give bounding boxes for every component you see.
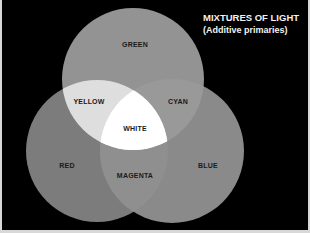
diagram-frame: GREEN YELLOW CYAN WHITE RED MAGENTA BLUE…: [0, 0, 310, 233]
label-yellow: YELLOW: [73, 98, 104, 105]
label-white: WHITE: [123, 125, 147, 132]
label-blue: BLUE: [198, 162, 218, 169]
label-red: RED: [59, 162, 74, 169]
label-green: GREEN: [122, 41, 148, 48]
title-line-2: (Additive primaries): [203, 25, 288, 35]
venn-diagram: GREEN YELLOW CYAN WHITE RED MAGENTA BLUE…: [2, 0, 310, 233]
label-magenta: MAGENTA: [117, 172, 153, 179]
label-cyan: CYAN: [168, 98, 188, 105]
title-line-1: MIXTURES OF LIGHT: [203, 12, 299, 23]
